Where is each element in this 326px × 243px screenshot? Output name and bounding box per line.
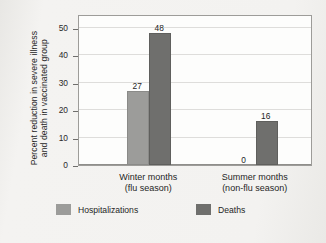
x-axis-label-line-2: (flu season) — [88, 183, 208, 194]
y-axis-tick — [73, 166, 78, 167]
y-axis-title-line-2: and death in vaccinated group — [39, 13, 49, 183]
gridline — [79, 82, 311, 83]
bar-value-label: 16 — [252, 111, 280, 121]
bar-hospitalizations-0 — [127, 91, 149, 165]
y-axis-title: Percent reduction in severe illness and … — [29, 13, 49, 183]
x-axis-category-label: Winter months(flu season) — [88, 172, 208, 195]
x-axis-category-label: Summer months(non-flu season) — [195, 172, 315, 195]
bar-value-label: 0 — [230, 155, 258, 165]
x-axis-label-line-2: (non-flu season) — [195, 183, 315, 194]
plot-area — [78, 15, 312, 166]
y-axis-tick-label: 50 — [46, 23, 68, 33]
y-axis-tick-label: 10 — [46, 133, 68, 143]
chart-legend: Hospitalizations Deaths — [0, 200, 326, 222]
gridline — [79, 109, 311, 110]
legend-label-hospitalizations: Hospitalizations — [78, 205, 138, 215]
bar-value-label: 27 — [123, 81, 151, 91]
legend-swatch-hospitalizations — [56, 204, 71, 215]
bar-value-label: 48 — [145, 23, 173, 33]
legend-item-deaths: Deaths — [196, 204, 245, 215]
bar-deaths-0 — [149, 33, 171, 165]
legend-label-deaths: Deaths — [218, 205, 245, 215]
gridline — [79, 27, 311, 28]
bar-deaths-1 — [256, 121, 278, 165]
x-axis-label-line-1: Winter months — [88, 172, 208, 183]
y-axis-tick-label: 30 — [46, 78, 68, 88]
gridline — [79, 54, 311, 55]
x-axis-label-line-1: Summer months — [195, 172, 315, 183]
legend-swatch-deaths — [196, 204, 211, 215]
y-axis-tick-label: 20 — [46, 105, 68, 115]
chart-figure: Percent reduction in severe illness and … — [0, 0, 326, 243]
y-axis-tick-label: 40 — [46, 50, 68, 60]
y-axis-title-line-1: Percent reduction in severe illness — [29, 13, 39, 183]
legend-item-hospitalizations: Hospitalizations — [56, 204, 138, 215]
y-axis-tick-label: 0 — [46, 160, 68, 170]
